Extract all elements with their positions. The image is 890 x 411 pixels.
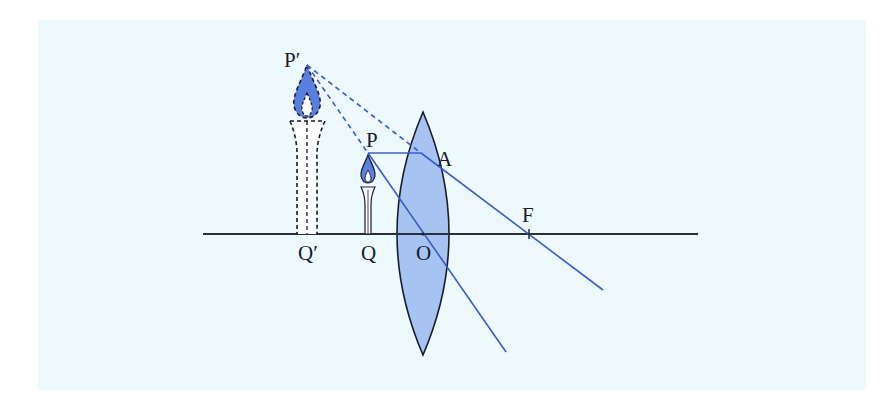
object-candle bbox=[361, 155, 375, 234]
label-refraction-point: A bbox=[437, 147, 453, 171]
label-object-top: P bbox=[366, 128, 378, 152]
label-optical-center: O bbox=[416, 241, 431, 265]
light-rays bbox=[307, 65, 603, 352]
label-image-base: Q′ bbox=[298, 241, 318, 265]
label-object-base: Q bbox=[361, 241, 376, 265]
optical-center-point bbox=[421, 232, 424, 235]
virtual-image-candle bbox=[290, 65, 325, 234]
label-focal-point: F bbox=[522, 203, 534, 227]
label-image-top: P′ bbox=[284, 48, 300, 72]
virtual-ray-extension-1 bbox=[307, 65, 421, 153]
lens-diagram: P′ P A F Q′ Q O bbox=[0, 0, 890, 411]
